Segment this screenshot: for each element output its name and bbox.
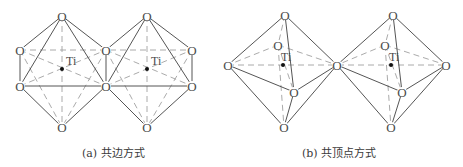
svg-text:O: O xyxy=(279,120,288,135)
svg-text:Ti: Ti xyxy=(66,54,77,68)
svg-text:O: O xyxy=(386,120,395,135)
svg-text:O: O xyxy=(142,9,151,24)
svg-text:O: O xyxy=(101,43,110,58)
svg-text:O: O xyxy=(289,85,298,100)
svg-text:O: O xyxy=(57,120,66,135)
svg-text:O: O xyxy=(187,43,196,58)
svg-text:O: O xyxy=(397,85,406,100)
svg-text:O: O xyxy=(187,79,196,94)
svg-text:O: O xyxy=(332,58,341,73)
svg-text:O: O xyxy=(15,79,24,94)
svg-text:O: O xyxy=(57,9,66,24)
subfigure-b-corner-sharing: OOO OOO OOO OO Ti Ti xyxy=(223,8,451,135)
oxygen-atoms-b: OOO OOO OOO OO xyxy=(223,8,451,135)
caption-b: (b) 共顶点方式 xyxy=(302,144,376,160)
titanium-octahedra-diagram: OO OOO OOO OO Ti Ti xyxy=(0,0,463,140)
svg-text:O: O xyxy=(223,58,232,73)
caption-a: (a) 共边方式 xyxy=(82,144,145,160)
svg-text:O: O xyxy=(280,8,289,23)
svg-text:O: O xyxy=(441,58,450,73)
svg-text:O: O xyxy=(101,79,110,94)
svg-text:O: O xyxy=(15,43,24,58)
subfigure-a-edge-sharing: OO OOO OOO OO Ti Ti xyxy=(15,9,197,135)
svg-text:O: O xyxy=(388,8,397,23)
svg-text:Ti: Ti xyxy=(281,50,292,64)
svg-text:O: O xyxy=(142,120,151,135)
svg-text:Ti: Ti xyxy=(151,54,162,68)
svg-text:Ti: Ti xyxy=(389,50,400,64)
